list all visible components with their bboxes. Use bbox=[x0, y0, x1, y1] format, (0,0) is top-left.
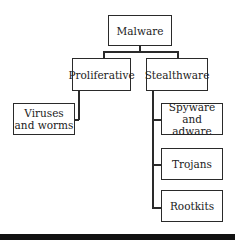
connector-to-proliferative bbox=[103, 51, 105, 58]
connector-to-rootkits bbox=[152, 207, 161, 209]
node-malware: Malware bbox=[108, 15, 172, 46]
connector-to-stealthware bbox=[177, 51, 179, 58]
connector-proliferative-down bbox=[78, 91, 80, 120]
node-spyware-and-adware: Spyware and adware bbox=[161, 103, 223, 135]
node-stealthware: Stealthware bbox=[146, 58, 208, 91]
connector-stealthware-down bbox=[152, 91, 154, 208]
node-label: Malware bbox=[117, 25, 164, 37]
node-rootkits: Rootkits bbox=[161, 190, 223, 222]
connector-to-spyware bbox=[152, 119, 161, 121]
node-viruses-and-worms: Viruses and worms bbox=[13, 103, 75, 135]
node-proliferative: Proliferative bbox=[72, 58, 131, 91]
bottom-border-bar bbox=[0, 234, 235, 240]
node-label: Rootkits bbox=[170, 200, 214, 212]
node-label: Proliferative bbox=[68, 69, 134, 81]
connector-to-viruses bbox=[75, 119, 79, 121]
connector-root-horizontal bbox=[103, 51, 178, 53]
node-label: Stealthware bbox=[145, 69, 210, 81]
node-label: Spyware and adware bbox=[162, 101, 222, 137]
node-label: Trojans bbox=[172, 158, 212, 170]
node-trojans: Trojans bbox=[161, 148, 223, 180]
connector-to-trojans bbox=[152, 164, 161, 166]
node-label: Viruses and worms bbox=[14, 107, 74, 131]
malware-taxonomy-diagram: Malware Proliferative Stealthware Viruse… bbox=[0, 0, 235, 240]
